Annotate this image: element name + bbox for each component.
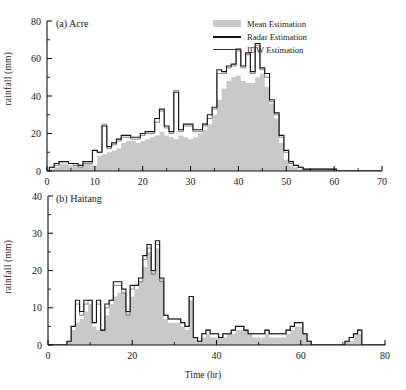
svg-text:0: 0 [46,350,51,361]
legend-label-radar: Radar Estimation [247,32,307,42]
panel-a-title: (a) Acre [56,18,88,29]
legend-label-idw: IDW Estimation [247,45,303,55]
y-axis-label-panel-b: rainfall (mm) [3,240,13,294]
legend: Mean Estimation Radar Estimation IDW Est… [213,17,307,56]
svg-text:60: 60 [31,53,41,64]
svg-text:80: 80 [31,16,41,27]
svg-text:40: 40 [31,91,41,102]
panel-b-title: (b) Haitang [56,193,102,204]
legend-item-mean: Mean Estimation [213,17,307,30]
svg-text:20: 20 [138,176,148,187]
svg-text:0: 0 [45,176,50,187]
legend-line-radar-icon [213,31,241,42]
svg-text:20: 20 [31,128,41,139]
svg-text:40: 40 [233,176,243,187]
svg-text:30: 30 [32,228,42,239]
svg-text:0: 0 [37,340,42,351]
svg-text:60: 60 [296,350,306,361]
y-axis-label-panel-a: rainfall (mm) [3,52,13,106]
legend-line-idw-icon [213,44,241,55]
svg-text:60: 60 [329,176,339,187]
svg-text:50: 50 [281,176,291,187]
svg-text:30: 30 [186,176,196,187]
svg-text:20: 20 [127,350,137,361]
legend-item-idw: IDW Estimation [213,43,307,56]
svg-text:80: 80 [380,350,390,361]
panel-b-haitang: 020406080010203040 [32,191,390,362]
legend-item-radar: Radar Estimation [213,30,307,43]
panel-a-acre: 010203040506070020406080 [31,16,387,188]
svg-text:10: 10 [90,176,100,187]
svg-text:0: 0 [36,166,41,177]
legend-label-mean: Mean Estimation [247,19,306,29]
svg-text:20: 20 [32,265,42,276]
svg-text:10: 10 [32,302,42,313]
svg-text:40: 40 [32,191,42,202]
legend-swatch-mean-icon [213,18,241,29]
svg-text:40: 40 [212,350,222,361]
x-axis-label: Time (hr) [0,370,406,380]
svg-text:70: 70 [377,176,387,187]
